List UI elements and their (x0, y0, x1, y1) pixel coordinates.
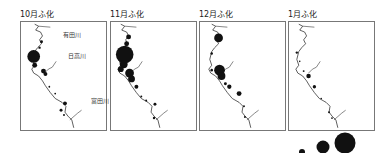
legend-bubbles (290, 128, 390, 153)
map-panel-nov (110, 21, 197, 131)
river-label-hidaka: 日高川 (68, 52, 86, 59)
coastline-map-jan (289, 22, 374, 130)
bubble-size-legend (290, 128, 390, 153)
map-panel-dec (199, 21, 286, 131)
coastline-map-nov (111, 22, 196, 130)
panel-title-oct: 10月ふ化 (20, 10, 54, 19)
river-label-arida: 有田川 (63, 31, 81, 38)
panel-title-nov: 11月ふ化 (110, 10, 144, 19)
panel-title-jan: 1月ふ化 (288, 10, 317, 19)
map-panel-jan (288, 21, 375, 131)
coastline-map-oct (21, 22, 106, 130)
coastline-map-dec (200, 22, 285, 130)
river-label-tonda: 富田川 (91, 97, 109, 104)
panel-title-dec: 12月ふ化 (199, 10, 233, 19)
